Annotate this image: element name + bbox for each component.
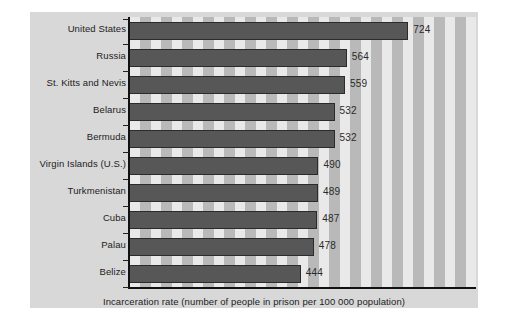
bar bbox=[130, 76, 345, 94]
category-label: Russia bbox=[96, 50, 126, 61]
plot-area: 724564559532532490489487478444 bbox=[130, 17, 478, 289]
y-axis-tick bbox=[123, 98, 129, 99]
category-axis-labels: United StatesRussiaSt. Kitts and NevisBe… bbox=[34, 17, 126, 289]
x-axis-caption: Incarceration rate (number of people in … bbox=[30, 296, 478, 307]
bar-row: 487 bbox=[130, 208, 476, 235]
bar-row: 532 bbox=[130, 127, 476, 154]
bar bbox=[130, 238, 314, 256]
bar-value-label: 559 bbox=[350, 78, 367, 89]
bar-row: 564 bbox=[130, 46, 476, 73]
bar-row: 724 bbox=[130, 19, 476, 46]
bar-value-label: 564 bbox=[352, 51, 369, 62]
bar-row: 532 bbox=[130, 100, 476, 127]
y-axis-tick bbox=[123, 44, 129, 45]
y-axis-tick bbox=[123, 179, 129, 180]
bar bbox=[130, 49, 347, 67]
bar-value-label: 532 bbox=[340, 132, 357, 143]
y-axis-tick bbox=[123, 233, 129, 234]
category-label: Belize bbox=[100, 266, 126, 277]
category-label: Belarus bbox=[93, 104, 126, 115]
y-axis-tick bbox=[123, 19, 129, 20]
category-label: Bermuda bbox=[87, 131, 126, 142]
category-label: St. Kitts and Nevis bbox=[46, 77, 126, 88]
bar-rows: 724564559532532490489487478444 bbox=[130, 17, 476, 287]
bar-value-label: 489 bbox=[323, 186, 340, 197]
y-axis-tick bbox=[123, 206, 129, 207]
bar bbox=[130, 103, 335, 121]
bar-value-label: 487 bbox=[322, 213, 339, 224]
y-axis-tick bbox=[123, 71, 129, 72]
y-axis-tick bbox=[123, 125, 129, 126]
bar-row: 444 bbox=[130, 262, 476, 289]
bar bbox=[130, 265, 301, 283]
category-label: Turkmenistan bbox=[68, 185, 126, 196]
category-label: Palau bbox=[101, 239, 126, 250]
chart-panel: United StatesRussiaSt. Kitts and NevisBe… bbox=[30, 12, 478, 308]
bar-value-label: 478 bbox=[319, 240, 336, 251]
category-label: Virgin Islands (U.S.) bbox=[40, 158, 126, 169]
bar bbox=[130, 211, 317, 229]
bar-row: 478 bbox=[130, 235, 476, 262]
bar-row: 489 bbox=[130, 181, 476, 208]
y-axis-tick bbox=[123, 287, 129, 288]
bar bbox=[130, 130, 335, 148]
bar bbox=[130, 22, 408, 40]
bar-row: 559 bbox=[130, 73, 476, 100]
bar-value-label: 724 bbox=[413, 24, 430, 35]
bar-row: 490 bbox=[130, 154, 476, 181]
y-axis-tick bbox=[123, 260, 129, 261]
bar-value-label: 490 bbox=[323, 159, 340, 170]
bar bbox=[130, 157, 318, 175]
bar-value-label: 444 bbox=[306, 267, 323, 278]
bar bbox=[130, 184, 318, 202]
bar-value-label: 532 bbox=[340, 105, 357, 116]
y-axis-tick bbox=[123, 152, 129, 153]
category-label: Cuba bbox=[103, 212, 126, 223]
category-label: United States bbox=[68, 23, 126, 34]
